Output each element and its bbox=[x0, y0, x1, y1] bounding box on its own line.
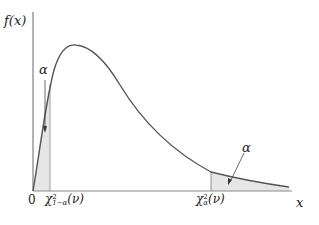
y-axis-label: f(x) bbox=[4, 14, 26, 27]
lower-critical-value-label: χ21−α(ν) bbox=[45, 193, 84, 207]
chi-square-diagram: f(x) x 0 α α χ21−α(ν) χ2α(ν) bbox=[0, 0, 319, 225]
lower-tail-alpha-label: α bbox=[39, 63, 48, 76]
density-curve bbox=[33, 45, 289, 191]
upper-critical-value-label: χ2α(ν) bbox=[196, 193, 225, 207]
upper-alpha-arrow bbox=[231, 153, 244, 180]
upper-tail-alpha-label: α bbox=[242, 141, 251, 154]
x-axis-label: x bbox=[296, 196, 303, 209]
origin-label: 0 bbox=[28, 194, 36, 206]
